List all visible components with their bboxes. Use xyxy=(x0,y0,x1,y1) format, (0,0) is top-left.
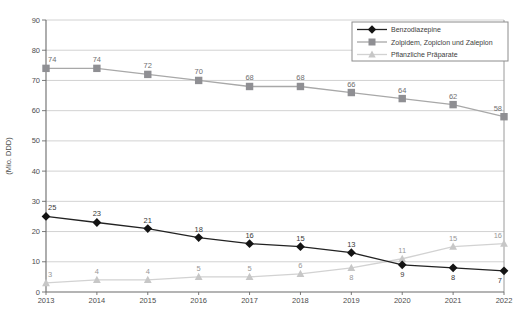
data-label-zolpidem-zopiclon-und-zaleplon: 74 xyxy=(93,55,101,64)
data-label-pflanzliche-präparate: 3 xyxy=(48,270,52,279)
y-tick-label: 10 xyxy=(32,257,40,266)
legend-label-benzodiazepine: Benzodiazepine xyxy=(391,26,441,34)
data-label-zolpidem-zopiclon-und-zaleplon: 62 xyxy=(449,92,457,101)
data-label-zolpidem-zopiclon-und-zaleplon: 68 xyxy=(296,73,304,82)
y-tick-label: 90 xyxy=(32,16,40,25)
data-label-pflanzliche-präparate: 11 xyxy=(398,246,406,255)
zolpidem-zopiclon-und-zaleplon-marker-square-icon xyxy=(348,89,355,96)
data-label-benzodiazepine: 13 xyxy=(347,240,355,249)
x-tick-label: 2013 xyxy=(38,296,55,305)
data-label-benzodiazepine: 25 xyxy=(48,203,56,212)
y-tick-label: 20 xyxy=(32,227,40,236)
data-label-pflanzliche-präparate: 8 xyxy=(349,273,353,282)
x-tick-label: 2015 xyxy=(139,296,156,305)
series-line-zolpidem-zopiclon-und-zaleplon xyxy=(46,68,504,116)
zolpidem-zopiclon-und-zaleplon-marker-square-icon xyxy=(93,65,100,72)
zolpidem-zopiclon-und-zaleplon-marker-square-icon xyxy=(144,71,151,78)
data-label-benzodiazepine: 18 xyxy=(194,225,202,234)
series-line-pflanzliche-präparate xyxy=(46,244,504,283)
benzodiazepine-marker-diamond-icon xyxy=(245,239,254,248)
x-tick-label: 2019 xyxy=(343,296,360,305)
zolpidem-zopiclon-und-zaleplon-marker-square-icon xyxy=(449,101,456,108)
data-label-pflanzliche-präparate: 5 xyxy=(247,264,251,273)
benzodiazepine-marker-diamond-icon xyxy=(296,242,305,251)
benzodiazepine-marker-diamond-icon xyxy=(42,212,51,221)
y-tick-label: 40 xyxy=(32,167,40,176)
benzodiazepine-marker-diamond-icon xyxy=(500,266,509,275)
data-label-zolpidem-zopiclon-und-zaleplon: 66 xyxy=(347,80,355,89)
zolpidem-zopiclon-und-zaleplon-marker-square-icon xyxy=(246,83,253,90)
x-tick-label: 2014 xyxy=(89,296,106,305)
zolpidem-zopiclon-und-zaleplon-marker-square-icon xyxy=(500,113,507,120)
y-tick-label: 30 xyxy=(32,197,40,206)
y-tick-label: 60 xyxy=(32,106,40,115)
zolpidem-zopiclon-und-zaleplon-marker-square-icon xyxy=(42,65,49,72)
x-tick-label: 2020 xyxy=(394,296,411,305)
series-line-benzodiazepine xyxy=(46,216,504,270)
x-tick-label: 2021 xyxy=(445,296,462,305)
data-label-zolpidem-zopiclon-und-zaleplon: 74 xyxy=(48,55,56,64)
data-label-benzodiazepine: 15 xyxy=(296,234,304,243)
data-label-zolpidem-zopiclon-und-zaleplon: 68 xyxy=(245,73,253,82)
data-label-benzodiazepine: 7 xyxy=(498,276,502,285)
legend-zolpidem-zopiclon-und-zaleplon-square-icon xyxy=(369,39,376,46)
data-label-zolpidem-zopiclon-und-zaleplon: 72 xyxy=(144,61,152,70)
legend-label-pflanzliche-präparate: Pflanzliche Präparate xyxy=(391,51,458,59)
zolpidem-zopiclon-und-zaleplon-marker-square-icon xyxy=(297,83,304,90)
data-label-pflanzliche-präparate: 15 xyxy=(449,234,457,243)
y-tick-label: 50 xyxy=(32,136,40,145)
x-tick-label: 2018 xyxy=(292,296,309,305)
legend-label-zolpidem-zopiclon-und-zaleplon: Zolpidem, Zopiclon und Zaleplon xyxy=(391,39,493,47)
benzodiazepine-marker-diamond-icon xyxy=(449,263,458,272)
data-label-benzodiazepine: 21 xyxy=(144,216,152,225)
benzodiazepine-marker-diamond-icon xyxy=(194,233,203,242)
chart: 0102030405060708090(Mio. DDD)20132014201… xyxy=(0,0,525,320)
zolpidem-zopiclon-und-zaleplon-marker-square-icon xyxy=(399,95,406,102)
data-label-pflanzliche-präparate: 4 xyxy=(95,267,99,276)
data-label-pflanzliche-präparate: 6 xyxy=(298,261,302,270)
data-label-benzodiazepine: 9 xyxy=(400,270,404,279)
data-label-zolpidem-zopiclon-und-zaleplon: 58 xyxy=(494,104,502,113)
data-label-benzodiazepine: 8 xyxy=(451,273,455,282)
data-label-benzodiazepine: 23 xyxy=(93,209,101,218)
benzodiazepine-marker-diamond-icon xyxy=(92,218,101,227)
zolpidem-zopiclon-und-zaleplon-marker-square-icon xyxy=(195,77,202,84)
y-axis-title: (Mio. DDD) xyxy=(4,137,13,175)
data-label-zolpidem-zopiclon-und-zaleplon: 70 xyxy=(194,67,202,76)
x-tick-label: 2017 xyxy=(241,296,258,305)
x-tick-label: 2022 xyxy=(496,296,513,305)
data-label-pflanzliche-präparate: 16 xyxy=(494,231,502,240)
data-label-zolpidem-zopiclon-und-zaleplon: 64 xyxy=(398,86,406,95)
data-label-benzodiazepine: 16 xyxy=(245,231,253,240)
line-chart-canvas: 0102030405060708090(Mio. DDD)20132014201… xyxy=(0,0,525,320)
x-tick-label: 2016 xyxy=(190,296,207,305)
benzodiazepine-marker-diamond-icon xyxy=(347,248,356,257)
y-tick-label: 80 xyxy=(32,46,40,55)
data-label-pflanzliche-präparate: 5 xyxy=(197,264,201,273)
y-tick-label: 70 xyxy=(32,76,40,85)
data-label-pflanzliche-präparate: 4 xyxy=(146,267,150,276)
